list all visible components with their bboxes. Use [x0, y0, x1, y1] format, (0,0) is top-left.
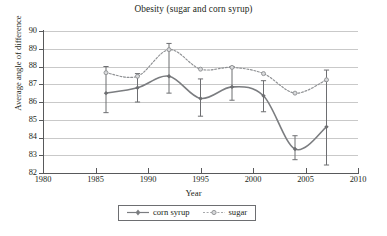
series-line-corn-syrup [106, 76, 327, 150]
legend-label-corn-syrup: corn syrup [153, 208, 190, 217]
data-point-corn-syrup [167, 74, 171, 78]
data-point-corn-syrup [230, 85, 234, 89]
x-tick-label: 1990 [128, 176, 168, 184]
legend-label-sugar: sugar [229, 208, 248, 217]
chart-title: Obesity (sugar and corn syrup) [0, 4, 387, 14]
legend-entry-sugar[interactable]: sugar [203, 208, 248, 217]
y-tick-label: 84 [9, 133, 37, 141]
legend-entry-corn-syrup[interactable]: corn syrup [127, 208, 190, 217]
chart-legend: corn syrup sugar [118, 205, 256, 221]
data-point-corn-syrup [198, 96, 202, 100]
x-axis-label: Year [0, 188, 387, 198]
data-point-sugar [104, 71, 108, 75]
y-tick-label: 85 [9, 116, 37, 124]
y-tick-label: 86 [9, 98, 37, 106]
data-point-sugar [230, 65, 234, 69]
x-tick-label: 2010 [338, 176, 378, 184]
data-point-sugar [325, 78, 329, 82]
y-tick-label: 88 [9, 62, 37, 70]
x-tick-label: 1985 [76, 176, 116, 184]
y-tick-label: 87 [9, 80, 37, 88]
legend-swatch-sugar [203, 208, 225, 217]
series-canvas [43, 31, 358, 173]
x-tick-label: 2005 [286, 176, 326, 184]
data-point-corn-syrup [135, 86, 139, 90]
x-tick-label: 1980 [23, 176, 63, 184]
y-tick-label: 89 [9, 45, 37, 53]
plot-area [43, 31, 358, 173]
y-tick-label: 83 [9, 151, 37, 159]
data-point-sugar [167, 48, 171, 52]
x-axis-line [43, 173, 359, 174]
x-tick-label: 1995 [181, 176, 221, 184]
data-point-sugar [136, 74, 140, 78]
data-point-corn-syrup [104, 91, 108, 95]
x-tick-label: 2000 [233, 176, 273, 184]
chart-figure: Obesity (sugar and corn syrup) Average a… [0, 0, 387, 236]
data-point-sugar [262, 72, 266, 76]
data-point-sugar [199, 67, 203, 71]
data-point-sugar [293, 91, 297, 95]
y-tick-label: 90 [9, 27, 37, 35]
legend-swatch-corn-syrup [127, 208, 149, 217]
